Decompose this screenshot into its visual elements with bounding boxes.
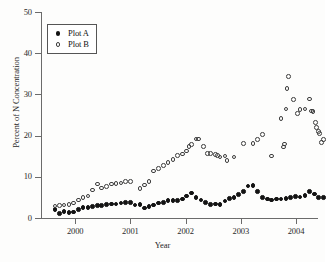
data-point-plot-b [317,131,322,136]
data-point-plot-b [99,186,104,191]
y-tick-label: 50 [0,8,32,17]
x-tick-label: 2004 [274,227,318,236]
data-point-plot-b [128,179,133,184]
data-point-plot-a [194,195,199,200]
data-point-plot-b [285,86,290,91]
data-point-plot-b [251,141,256,146]
data-point-plot-a [241,189,246,194]
data-point-plot-a [227,196,232,201]
data-point-plot-a [260,195,265,200]
data-point-plot-a [251,183,256,188]
data-point-plot-a [218,202,223,207]
data-point-plot-a [236,192,241,197]
data-point-plot-a [104,202,109,207]
x-axis-title: Year [0,241,325,250]
data-point-plot-b [201,144,206,149]
y-tick-mark [35,218,41,219]
data-point-plot-a [307,189,312,194]
data-point-plot-b [313,120,318,125]
data-point-plot-b [307,97,312,102]
data-point-plot-b [81,195,86,200]
data-point-plot-a [133,203,138,208]
data-point-plot-a [71,210,76,215]
data-point-plot-b [189,142,194,147]
data-point-plot-b [225,158,230,163]
data-point-plot-b [184,149,189,154]
x-tick-mark [296,219,297,224]
data-point-plot-a [151,203,156,208]
data-point-plot-b [156,166,161,171]
x-tick-label: 2001 [108,227,152,236]
x-tick-mark [186,219,187,224]
data-point-plot-a [203,200,208,205]
data-point-plot-a [189,191,194,196]
data-point-plot-a [53,207,58,212]
data-point-plot-a [316,195,321,200]
data-point-plot-b [114,181,119,186]
data-point-plot-b [260,132,265,137]
data-point-plot-a [128,200,133,205]
x-tick-label: 2002 [164,227,208,236]
data-point-plot-b [208,151,213,156]
x-tick-mark [130,219,131,224]
y-tick-label: 0 [0,214,32,223]
data-point-plot-a [288,195,293,200]
data-point-plot-a [81,205,86,210]
data-point-plot-b [255,137,260,142]
data-point-plot-b [138,186,143,191]
data-point-plot-a [90,204,95,209]
data-point-plot-b [196,137,201,142]
data-point-plot-b [282,142,287,147]
x-tick-mark [241,219,242,224]
data-point-plot-a [303,193,308,198]
data-point-plot-b [175,153,180,158]
data-point-plot-a [123,200,128,205]
x-tick-label: 2000 [53,227,97,236]
data-point-plot-a [255,189,260,194]
data-point-plot-a [269,198,274,203]
x-tick-label: 2003 [219,227,263,236]
data-point-plot-a [175,198,180,203]
data-point-plot-b [161,163,166,168]
data-point-plot-b [123,179,128,184]
data-point-plot-a [142,206,147,211]
data-point-plot-a [208,202,213,207]
data-point-plot-b [291,97,296,102]
data-point-plot-b [295,111,300,116]
data-point-plot-b [241,141,246,146]
data-point-plot-b [286,74,291,79]
data-point-plot-b [171,157,176,162]
plot-area [41,12,317,218]
data-point-plot-b [298,107,303,112]
y-axis-title: Percent of N Concentration [12,23,21,183]
data-point-plot-b [142,183,147,188]
x-axis-line [41,218,318,219]
x-tick-mark [75,219,76,224]
data-point-plot-a [321,195,326,200]
data-point-plot-b [90,188,95,193]
data-point-plot-b [321,137,326,142]
data-point-plot-b [104,184,109,189]
data-point-plot-a [99,203,104,208]
